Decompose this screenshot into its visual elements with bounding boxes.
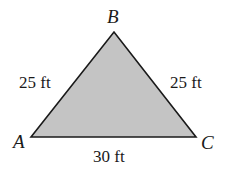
vertex-label-b: B [107,6,119,27]
side-label-ab: 25 ft [19,73,51,92]
side-label-ac: 30 ft [93,147,125,166]
vertex-label-a: A [11,131,25,152]
triangle-diagram: B A C 25 ft 25 ft 30 ft [0,0,239,169]
vertex-label-c: C [201,132,214,153]
side-label-bc: 25 ft [170,73,202,92]
